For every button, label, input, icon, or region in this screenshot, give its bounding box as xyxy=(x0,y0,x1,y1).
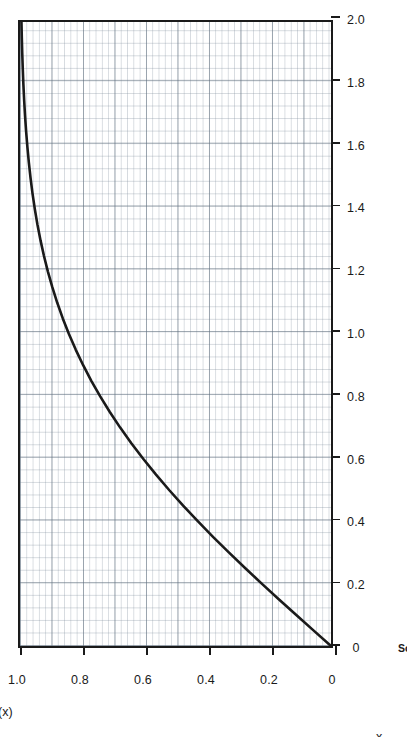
x-tick-label: 1.4 xyxy=(339,201,373,215)
x-tick-label: 0 xyxy=(339,641,373,655)
x-tick-label: 1.8 xyxy=(339,76,373,90)
source-prefix: Source: xyxy=(398,642,407,654)
x-tick-label: 1.6 xyxy=(339,139,373,153)
source-caption: Source: Pottset al. [14]. xyxy=(398,642,407,654)
series-line xyxy=(21,22,331,646)
y-tick-label: 0.2 xyxy=(252,673,286,687)
y-tick-label: 1.0 xyxy=(0,673,34,687)
y-tick-label: 0.8 xyxy=(63,673,97,687)
y-tick xyxy=(209,646,211,655)
x-tick-label: 0.6 xyxy=(339,453,373,467)
y-tick xyxy=(272,646,274,655)
plot-area xyxy=(18,20,333,648)
x-tick-label: 2.0 xyxy=(339,13,373,27)
y-tick xyxy=(83,646,85,655)
y-tick xyxy=(20,646,22,655)
x-tick-label: 1.0 xyxy=(339,327,373,341)
y-tick-label: 0 xyxy=(315,673,349,687)
y-tick xyxy=(146,646,148,655)
y-tick xyxy=(335,646,337,655)
x-tick-label: 1.2 xyxy=(339,264,373,278)
y-tick-label: 0.6 xyxy=(126,673,160,687)
x-tick-label: 0.8 xyxy=(339,390,373,404)
x-axis-title: x xyxy=(364,730,394,737)
y-axis-title: erf(x) xyxy=(0,705,18,719)
y-tick-label: 0.4 xyxy=(189,673,223,687)
figure-rotated-wrapper: 00.20.40.60.81.01.21.41.61.82.0 00.20.40… xyxy=(0,0,407,737)
x-tick-label: 0.2 xyxy=(339,578,373,592)
x-tick-label: 0.4 xyxy=(339,515,373,529)
erf-curve xyxy=(20,22,331,646)
